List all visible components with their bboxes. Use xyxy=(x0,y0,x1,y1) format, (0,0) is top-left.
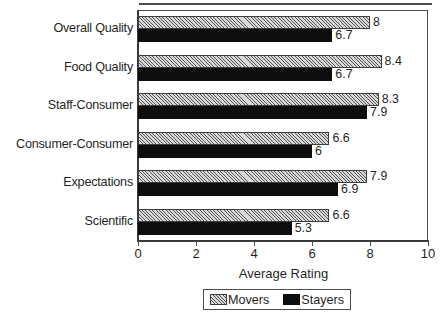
legend-label-movers: Movers xyxy=(228,293,269,307)
bar-movers-expectations xyxy=(138,170,367,183)
value-label-movers-overall-quality: 8 xyxy=(373,16,380,29)
bar-stayers-consumer-consumer xyxy=(138,145,312,158)
x-tick-label-2: 2 xyxy=(192,246,199,261)
bar-movers-consumer-consumer xyxy=(138,132,329,145)
legend-swatch-movers xyxy=(210,294,227,305)
x-tick-label-6: 6 xyxy=(308,246,315,261)
value-label-stayers-food-quality: 6.7 xyxy=(335,68,352,81)
category-label-staff-consumer: Staff-Consumer xyxy=(3,98,133,112)
bar-movers-food-quality xyxy=(138,55,382,68)
category-label-consumer-consumer: Consumer-Consumer xyxy=(3,137,133,151)
value-label-movers-expectations: 7.9 xyxy=(370,170,387,183)
legend-entry-movers: Movers xyxy=(210,293,269,307)
chart-legend: Movers Stayers xyxy=(203,289,351,310)
value-label-stayers-consumer-consumer: 6 xyxy=(315,145,322,158)
legend-entry-stayers: Stayers xyxy=(283,293,344,307)
category-label-overall-quality: Overall Quality xyxy=(3,21,133,35)
bar-stayers-overall-quality xyxy=(138,29,332,42)
value-label-stayers-overall-quality: 6.7 xyxy=(335,29,352,42)
bar-movers-staff-consumer xyxy=(138,93,379,106)
x-tick-label-8: 8 xyxy=(366,246,373,261)
value-label-stayers-expectations: 6.9 xyxy=(341,183,358,196)
value-label-stayers-scientific: 5.3 xyxy=(295,222,312,235)
bars-layer: 86.78.46.78.37.96.667.96.96.65.3 xyxy=(138,10,428,241)
bar-chart-figure: Overall QualityFood QualityStaff-Consume… xyxy=(0,0,440,314)
bar-stayers-food-quality xyxy=(138,68,332,81)
legend-swatch-stayers xyxy=(283,294,300,305)
value-label-movers-scientific: 6.6 xyxy=(332,209,349,222)
x-tick-label-10: 10 xyxy=(421,246,435,261)
category-label-expectations: Expectations xyxy=(3,175,133,189)
bar-stayers-staff-consumer xyxy=(138,106,367,119)
x-axis-title: Average Rating xyxy=(138,266,429,281)
value-label-movers-consumer-consumer: 6.6 xyxy=(332,132,349,145)
x-tick-label-0: 0 xyxy=(134,246,141,261)
value-label-stayers-staff-consumer: 7.9 xyxy=(370,106,387,119)
category-axis-labels: Overall QualityFood QualityStaff-Consume… xyxy=(0,10,133,241)
category-label-scientific: Scientific xyxy=(3,214,133,228)
bar-stayers-scientific xyxy=(138,222,292,235)
bar-movers-scientific xyxy=(138,209,329,222)
category-label-food-quality: Food Quality xyxy=(3,60,133,74)
x-tick-label-4: 4 xyxy=(250,246,257,261)
legend-label-stayers: Stayers xyxy=(301,293,344,307)
bar-stayers-expectations xyxy=(138,183,338,196)
top-divider-rule xyxy=(139,3,432,5)
value-label-movers-food-quality: 8.4 xyxy=(385,55,402,68)
